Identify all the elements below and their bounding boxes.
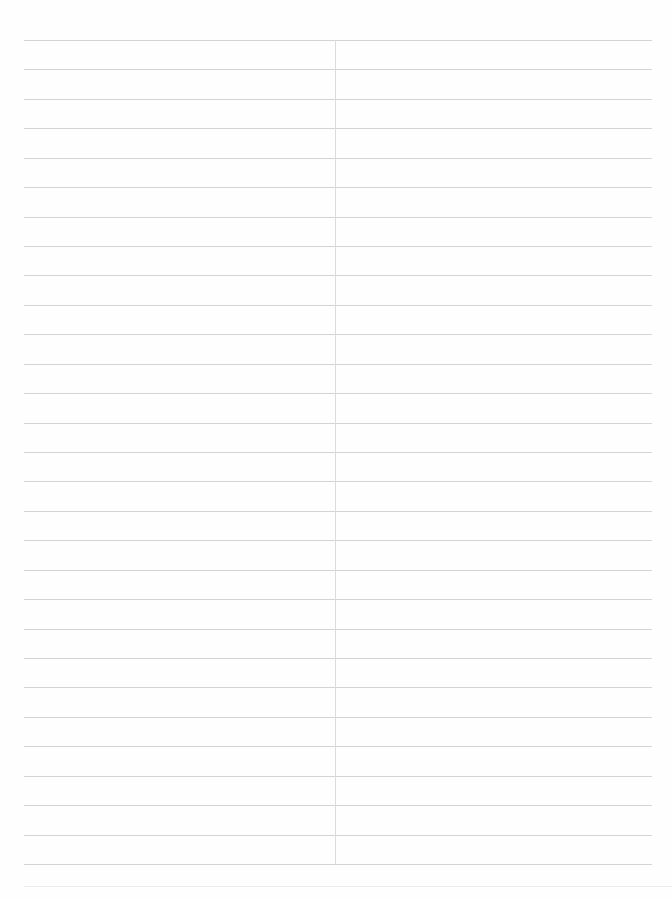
- ruled-line: [24, 835, 652, 836]
- center-column-divider: [335, 40, 336, 864]
- ruled-line: [24, 481, 652, 482]
- ruled-line: [24, 246, 652, 247]
- ruled-line: [24, 805, 652, 806]
- ruled-line: [24, 629, 652, 630]
- ruled-line: [24, 334, 652, 335]
- ruled-line: [24, 40, 652, 41]
- ruled-line: [24, 217, 652, 218]
- ruled-line: [24, 69, 652, 70]
- ruled-line: [24, 99, 652, 100]
- ruled-line: [24, 364, 652, 365]
- ruled-line: [24, 423, 652, 424]
- ruled-line: [24, 275, 652, 276]
- ruled-line: [24, 776, 652, 777]
- ruled-line: [24, 393, 652, 394]
- ruled-line: [24, 187, 652, 188]
- bottom-faint-line: [24, 886, 672, 887]
- ruled-line: [24, 452, 652, 453]
- ruled-line: [24, 599, 652, 600]
- ruled-line: [24, 864, 652, 865]
- ruled-line: [24, 305, 652, 306]
- ruled-line: [24, 540, 652, 541]
- ruled-line: [24, 570, 652, 571]
- ruled-line: [24, 687, 652, 688]
- ruled-line: [24, 158, 652, 159]
- ruled-line: [24, 746, 652, 747]
- lined-paper-page: [0, 0, 672, 901]
- ruled-line: [24, 658, 652, 659]
- ruled-line: [24, 128, 652, 129]
- ruled-line: [24, 717, 652, 718]
- ruled-line: [24, 511, 652, 512]
